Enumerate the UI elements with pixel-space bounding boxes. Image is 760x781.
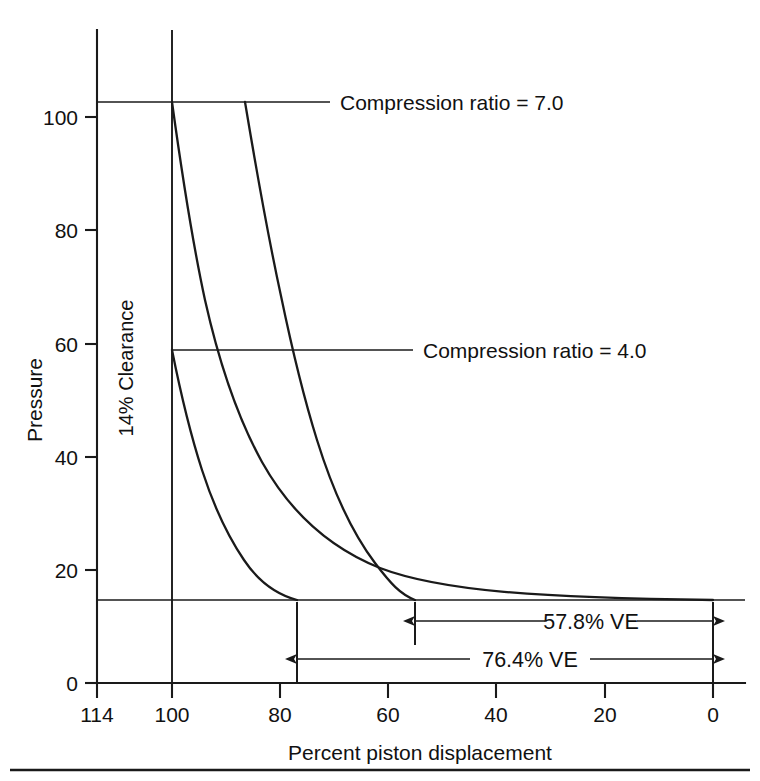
y-tick-label-20: 20: [55, 559, 78, 582]
x-axis-title: Percent piston displacement: [288, 741, 552, 764]
ve-578-label: 57.8% VE: [543, 610, 639, 634]
axes-group: [97, 30, 745, 683]
y-tick-label-80: 80: [55, 219, 78, 242]
y-axis-title: Pressure: [23, 358, 46, 442]
curve-compression-ratio-4-lower: [172, 350, 297, 600]
y-tick-label-40: 40: [55, 446, 78, 469]
clearance-label: 14% Clearance: [115, 300, 137, 437]
ve-764-dimension-group: 76.4% VE: [297, 602, 713, 683]
curve-compression-ratio-4-upper: [245, 102, 415, 600]
ve-764-label: 76.4% VE: [482, 648, 578, 672]
x-tick-label-40: 40: [484, 703, 507, 726]
y-tick-label-100: 100: [43, 106, 78, 129]
compression-ratio-7-group: Compression ratio = 7.0: [97, 91, 564, 114]
y-tick-label-group: 0 20 40 60 80 100: [43, 106, 78, 695]
compression-ratio-7-label: Compression ratio = 7.0: [340, 91, 564, 114]
compression-ratio-4-label: Compression ratio = 4.0: [423, 339, 647, 362]
x-tick-label-20: 20: [593, 703, 616, 726]
x-tick-label-group: 114 100 80 60 40 20 0: [80, 703, 719, 726]
y-tick-label-60: 60: [55, 333, 78, 356]
compressor-pv-diagram-figure: 0 20 40 60 80 100 114 100 80 60 40 20 0: [0, 0, 760, 781]
x-tick-label-0: 0: [707, 703, 719, 726]
chart-canvas: 0 20 40 60 80 100 114 100 80 60 40 20 0: [0, 0, 760, 781]
x-tick-group: [97, 683, 713, 698]
y-tick-group: [85, 117, 97, 683]
x-tick-label-80: 80: [268, 703, 291, 726]
x-tick-label-100: 100: [154, 703, 189, 726]
compression-ratio-4-group: Compression ratio = 4.0: [172, 339, 647, 362]
x-tick-label-60: 60: [376, 703, 399, 726]
y-tick-label-0: 0: [66, 672, 78, 695]
x-tick-label-114: 114: [80, 703, 114, 726]
